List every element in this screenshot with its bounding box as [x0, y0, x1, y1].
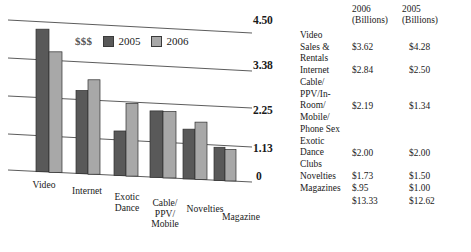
category-label-magazine: Magazine [214, 212, 268, 223]
table-row: Internet$2.84$2.50 [300, 65, 459, 77]
ytick-label: 2.25 [253, 104, 273, 116]
table-cell-2005: $1.00 [402, 183, 459, 195]
table-cell-2005: $1.34 [402, 77, 459, 136]
table-cell-2005: $2.00 [402, 136, 459, 171]
table-row: Exotic Dance Clubs$2.00$2.00 [300, 136, 459, 171]
table-cell-2005: $4.28 [402, 30, 459, 65]
legend-swatch-2006 [151, 36, 162, 47]
table-total-2006: $13.33 [352, 194, 402, 207]
data-table: 2006 (Billions) 2005 (Billions) Video Sa… [300, 4, 459, 208]
legend-label-2006: 2006 [166, 35, 188, 47]
table-header-2006: 2006 (Billions) [352, 4, 402, 30]
table-cell-2006: $2.00 [352, 136, 402, 171]
bar-2005 [114, 131, 126, 176]
table-cell-2006: $2.19 [352, 77, 402, 136]
table-row: Magazines$.95$1.00 [300, 183, 459, 195]
table-header-2005-year: 2005 [402, 4, 421, 14]
ytick-label: 3.38 [253, 59, 273, 71]
table-cell-category: Video Sales & Rentals [300, 30, 352, 65]
chart-legend: $$$ 2005 2006 [75, 35, 188, 47]
table-header-2006-unit: (Billions) [352, 15, 396, 26]
ytick-label: 1.13 [253, 142, 273, 154]
ytick-label: 0 [256, 170, 262, 182]
table-row: Cable/ PPV/In- Room/ Mobile/ Phone Sex$2… [300, 77, 459, 136]
table-header-category [300, 4, 352, 30]
category-label-exotic-dance: ExoticDance [107, 192, 147, 213]
category-label-internet: Internet [62, 186, 112, 197]
legend-swatch-2005 [103, 36, 114, 47]
table-header-2006-year: 2006 [352, 4, 371, 14]
table-cell-category: Internet [300, 65, 352, 77]
table-cell-2006: $3.62 [352, 30, 402, 65]
bar-2006 [126, 103, 138, 176]
bar-2006 [225, 149, 236, 180]
legend-label-2005: 2005 [118, 35, 140, 47]
bar-2005 [150, 111, 163, 177]
bar-2006 [49, 52, 62, 173]
ytick-label: 4.50 [253, 14, 273, 26]
table-cell-category: Exotic Dance Clubs [300, 136, 352, 171]
bar-2005 [214, 147, 225, 180]
table-cell-category: Novelties [300, 171, 352, 183]
axis-title-money: $$$ [75, 35, 92, 47]
table-cell-2005: $1.50 [402, 171, 459, 183]
table-row: Video Sales & Rentals$3.62$4.28 [300, 30, 459, 65]
table-total-label [300, 194, 352, 207]
bar-chart: 4.50 3.38 2.25 1.13 0 $$$ 2005 2006 Vide… [0, 0, 300, 252]
table-cell-2006: $1.73 [352, 171, 402, 183]
table-row: Novelties$1.73$1.50 [300, 171, 459, 183]
bar-2006 [195, 122, 207, 179]
bar-2005 [76, 90, 88, 173]
table-header-2005: 2005 (Billions) [402, 4, 459, 30]
table-cell-category: Cable/ PPV/In- Room/ Mobile/ Phone Sex [300, 77, 352, 136]
bar-series [36, 29, 236, 181]
data-table-panel: 2006 (Billions) 2005 (Billions) Video Sa… [300, 0, 471, 252]
table-cell-2005: $2.50 [402, 65, 459, 77]
table-header-2005-unit: (Billions) [402, 15, 453, 26]
table-header-row: 2006 (Billions) 2005 (Billions) [300, 4, 459, 30]
bar-2006 [88, 80, 100, 174]
bar-2006 [163, 112, 176, 178]
table-cell-category: Magazines [300, 183, 352, 195]
table-total-row: $13.33$12.62 [300, 194, 459, 207]
bar-2005 [183, 129, 195, 179]
table-cell-2006: $.95 [352, 183, 402, 195]
category-label-video: Video [23, 180, 65, 191]
bar-2005 [36, 29, 49, 172]
table-total-2005: $12.62 [402, 194, 459, 207]
table-cell-2006: $2.84 [352, 65, 402, 77]
figure-root: 4.50 3.38 2.25 1.13 0 $$$ 2005 2006 Vide… [0, 0, 471, 252]
